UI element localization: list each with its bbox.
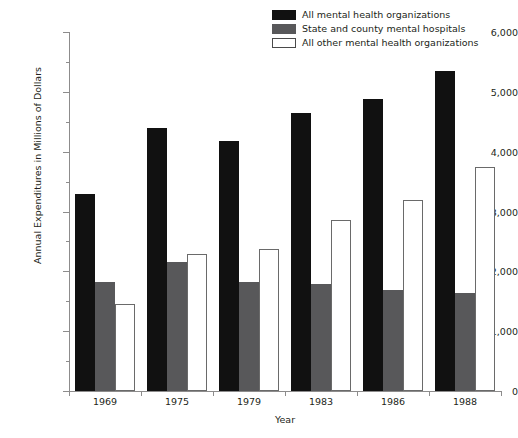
- bar-group: [213, 32, 285, 391]
- legend-swatch-black-icon: [272, 10, 296, 20]
- x-tick-separator: [501, 391, 502, 396]
- bar: [403, 200, 423, 391]
- bar-group: [69, 32, 141, 391]
- bar: [475, 167, 495, 391]
- x-tick-label: 1969: [69, 396, 141, 407]
- chart-figure: All mental health organizations State an…: [0, 0, 518, 438]
- x-tick-separator: [69, 391, 70, 396]
- bar: [147, 128, 167, 391]
- bar: [239, 282, 259, 391]
- bar: [435, 71, 455, 391]
- bar: [167, 262, 187, 391]
- bar: [187, 254, 207, 391]
- bar-group: [357, 32, 429, 391]
- x-tick-label: 1983: [285, 396, 357, 407]
- y-axis-title: Annual Expenditures in Millions of Dolla…: [32, 66, 43, 266]
- bar: [363, 99, 383, 391]
- x-axis-title: Year: [69, 414, 501, 425]
- bar: [219, 141, 239, 391]
- bar: [383, 290, 403, 391]
- bar: [115, 304, 135, 391]
- bar: [311, 284, 331, 391]
- plot-area: [69, 32, 501, 391]
- bar: [291, 113, 311, 391]
- bar: [259, 249, 279, 391]
- legend-label: All mental health organizations: [302, 9, 450, 20]
- bar-group: [285, 32, 357, 391]
- x-tick-label: 1988: [429, 396, 501, 407]
- bar-group: [429, 32, 501, 391]
- x-tick-label: 1986: [357, 396, 429, 407]
- bar: [331, 220, 351, 391]
- bar-group: [141, 32, 213, 391]
- bar: [75, 194, 95, 391]
- bar: [95, 282, 115, 391]
- cut-off-caption: [8, 0, 308, 6]
- x-tick-label: 1979: [213, 396, 285, 407]
- bar: [455, 293, 475, 391]
- legend-item-all-mental-health-organizations: All mental health organizations: [272, 8, 512, 21]
- x-tick-label: 1975: [141, 396, 213, 407]
